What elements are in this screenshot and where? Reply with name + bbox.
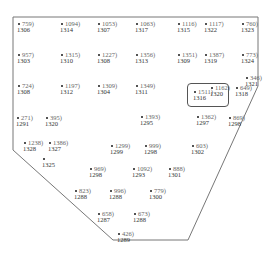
spot-id: 1297	[196, 119, 209, 126]
spot-marker-icon	[18, 54, 20, 56]
spot-marker-icon	[46, 117, 48, 119]
spot-id: 1308	[97, 57, 110, 64]
spot-id: 1309	[177, 57, 190, 64]
spot-marker-icon	[169, 168, 171, 170]
spot-marker-icon	[90, 168, 92, 170]
spot-marker-icon	[145, 145, 147, 147]
spot-marker-icon	[133, 168, 135, 170]
spot-id: 1313	[135, 57, 148, 64]
spot-marker-icon	[205, 23, 207, 25]
spot-id: 1315	[177, 26, 190, 33]
spot-marker-icon	[118, 233, 120, 235]
spot-marker-icon	[18, 23, 20, 25]
spot-marker-icon	[150, 190, 152, 192]
spot-marker-icon	[197, 116, 199, 118]
spot-id: 1298	[144, 148, 157, 155]
spot-marker-icon	[141, 116, 143, 118]
spot-id: 1324	[241, 57, 254, 64]
spot-id: 1316	[193, 94, 206, 101]
spot-marker-icon	[24, 142, 26, 144]
spot-id: 1298	[228, 120, 241, 127]
spot-marker-icon	[246, 77, 248, 79]
spot-id: 1327	[48, 145, 61, 152]
spot-id: 1289	[117, 236, 130, 243]
spot-id: 1300	[149, 193, 162, 200]
spot-marker-icon	[134, 213, 136, 215]
spot-id: 1322	[204, 26, 217, 33]
spot-marker-icon	[61, 54, 63, 56]
spot-id: 1320	[210, 90, 223, 97]
spot-marker-icon	[18, 85, 20, 87]
spot-marker-icon	[98, 54, 100, 56]
spot-id: 1328	[23, 145, 36, 152]
spot-marker-icon	[236, 87, 238, 89]
spot-marker-icon	[136, 85, 138, 87]
spot-marker-icon	[98, 213, 100, 215]
spot-id: 1299	[110, 148, 123, 155]
spot-id: 1303	[17, 57, 30, 64]
spot-marker-icon	[43, 158, 45, 160]
spot-id: 1318	[235, 90, 248, 97]
spot-marker-icon	[61, 85, 63, 87]
spot-marker-icon	[111, 145, 113, 147]
spot-id: 1323	[241, 26, 254, 33]
spot-id: 1288	[74, 193, 87, 200]
spot-id: 1288	[109, 193, 122, 200]
spot-marker-icon	[242, 23, 244, 25]
spot-marker-icon	[178, 23, 180, 25]
spot-marker-icon	[98, 23, 100, 25]
spot-marker-icon	[61, 23, 63, 25]
spot-id: 1317	[135, 26, 148, 33]
spot-id: 1301	[168, 171, 181, 178]
spot-marker-icon	[98, 85, 100, 87]
spot-id: 1320	[45, 120, 58, 127]
spot-id: 1295	[140, 119, 153, 126]
spot-id: 1304	[97, 88, 110, 95]
spot-marker-icon	[229, 117, 231, 119]
spot-id: 1293	[132, 171, 145, 178]
spot-marker-icon	[211, 87, 213, 89]
spot-marker-icon	[49, 142, 51, 144]
spot-id: 1310	[60, 57, 73, 64]
spot-id: 1308	[17, 88, 30, 95]
spot-id: 1302	[191, 148, 204, 155]
spot-id: 1291	[16, 120, 29, 127]
spot-marker-icon	[192, 145, 194, 147]
spot-id: 1314	[60, 26, 73, 33]
spot-marker-icon	[205, 54, 207, 56]
spot-id: 1312	[60, 88, 73, 95]
spot-id: 1325	[42, 161, 55, 168]
spot-id: 1288	[133, 216, 146, 223]
spot-marker-icon	[136, 23, 138, 25]
spot-marker-icon	[136, 54, 138, 56]
spot-marker-icon	[17, 117, 19, 119]
spot-marker-icon	[242, 54, 244, 56]
spot-id: 1307	[97, 26, 110, 33]
spot-id: 1319	[204, 57, 217, 64]
spot-marker-icon	[75, 190, 77, 192]
spot-id: 1287	[97, 216, 110, 223]
spot-marker-icon	[110, 190, 112, 192]
spot-marker-icon	[178, 54, 180, 56]
spot-id: 1306	[17, 26, 30, 33]
spot-id: 1298	[89, 171, 102, 178]
spot-id: 1311	[135, 88, 148, 95]
spot-marker-icon	[194, 91, 196, 93]
